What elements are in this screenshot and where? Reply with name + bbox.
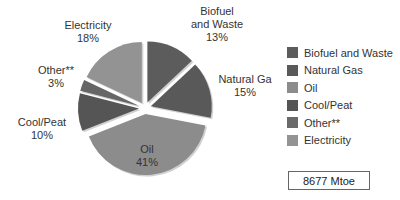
legend-item-oil: Oil [287,79,393,97]
legend-item-other: Other** [287,114,393,132]
legend-swatch [287,47,298,58]
label-text: Other** [38,64,74,77]
label-oil: Oil 41% [136,143,158,169]
label-other: Other** 3% [38,64,74,90]
legend-swatch [287,117,298,128]
label-text: Oil [136,143,158,156]
legend-item-natural-gas: Natural Gas [287,62,393,80]
label-pct: 15% [218,86,271,99]
legend-label: Natural Gas [304,64,363,76]
legend-item-coal-peat: Cool/Peat [287,97,393,115]
legend-item-electricity: Electricity [287,132,393,150]
label-pct: 3% [38,77,74,90]
legend-label: Other** [304,117,340,129]
label-text: Electricity [64,19,111,32]
label-text: Cool/Peat [18,116,66,129]
label-biofuel: Biofuel and Waste 13% [191,5,243,44]
label-text: Natural Ga [218,73,271,86]
label-pct: 18% [64,32,111,45]
label-pct: 13% [191,31,243,44]
legend-label: Cool/Peat [304,99,352,111]
legend-label: Oil [304,82,317,94]
label-coal-peat: Cool/Peat 10% [18,116,66,142]
label-natural-gas: Natural Ga 15% [218,73,271,99]
legend-swatch [287,65,298,76]
label-pct: 10% [18,129,66,142]
legend-swatch [287,82,298,93]
label-electricity: Electricity 18% [64,19,111,45]
legend-swatch [287,135,298,146]
total-annotation: 8677 Mtoe [288,171,370,190]
legend-label: Electricity [304,134,351,146]
legend: Biofuel and Waste Natural Gas Oil Cool/P… [287,44,393,149]
label-text: Biofuel [191,5,243,18]
legend-swatch [287,100,298,111]
pie-chart [0,0,300,200]
label-pct: 41% [136,156,158,169]
legend-item-biofuel: Biofuel and Waste [287,44,393,62]
label-text: and Waste [191,18,243,31]
legend-label: Biofuel and Waste [304,47,393,59]
